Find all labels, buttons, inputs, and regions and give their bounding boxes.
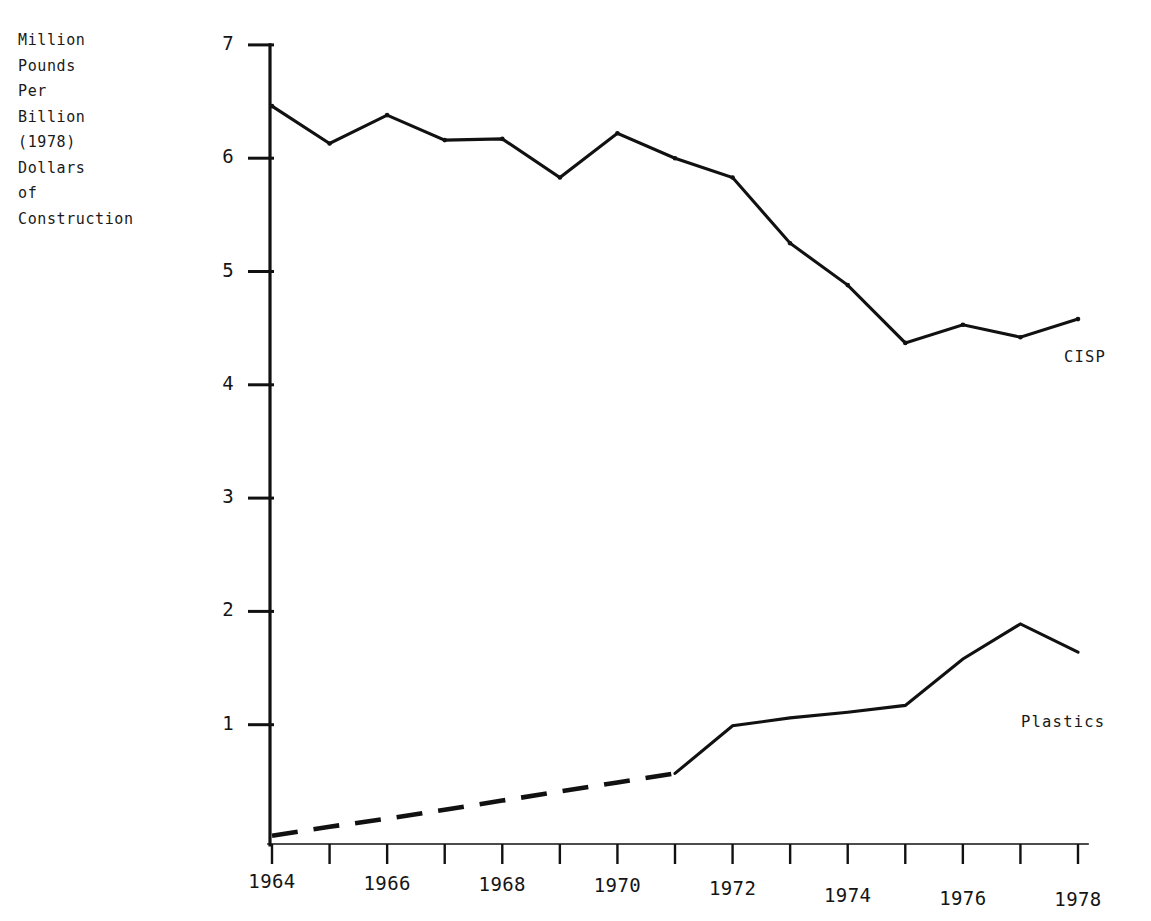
series-point-cisp-1978 bbox=[1076, 317, 1081, 322]
series-point-cisp-1972 bbox=[730, 175, 735, 180]
y-tick-label-2: 2 bbox=[210, 598, 234, 620]
y-tick-label-3: 3 bbox=[210, 485, 234, 507]
series-line-plastics bbox=[675, 624, 1078, 774]
series-point-cisp-1969 bbox=[558, 175, 563, 180]
x-tick-label-1972: 1972 bbox=[701, 877, 765, 899]
series-point-cisp-1975 bbox=[903, 341, 908, 346]
x-tick-label-1970: 1970 bbox=[585, 874, 649, 896]
series-point-cisp-1974 bbox=[845, 283, 850, 288]
y-tick-label-7: 7 bbox=[210, 32, 234, 54]
x-tick-label-1978: 1978 bbox=[1046, 888, 1110, 910]
x-tick-label-1968: 1968 bbox=[470, 873, 534, 895]
series-point-cisp-1970 bbox=[615, 131, 620, 136]
chart-plot-area bbox=[0, 0, 1151, 921]
series-point-cisp-1966 bbox=[385, 113, 390, 118]
series-point-cisp-1965 bbox=[327, 141, 332, 146]
chart-page: MillionPoundsPerBillion(1978)DollarsofCo… bbox=[0, 0, 1151, 921]
y-tick-label-1: 1 bbox=[210, 712, 234, 734]
series-point-cisp-1964 bbox=[270, 104, 275, 109]
series-point-cisp-1971 bbox=[673, 156, 678, 161]
chart-series bbox=[270, 104, 1081, 836]
series-label-plastics: Plastics bbox=[1021, 713, 1105, 731]
x-tick-label-1974: 1974 bbox=[816, 884, 880, 906]
series-point-cisp-1977 bbox=[1018, 335, 1023, 340]
y-tick-label-4: 4 bbox=[210, 372, 234, 394]
x-tick-label-1964: 1964 bbox=[240, 870, 304, 892]
series-line-plastics-dashed bbox=[272, 773, 675, 835]
series-point-cisp-1973 bbox=[788, 241, 793, 246]
chart-axes bbox=[248, 45, 1088, 864]
series-point-cisp-1967 bbox=[442, 138, 447, 143]
series-point-cisp-1968 bbox=[500, 137, 505, 142]
series-point-cisp-1976 bbox=[961, 323, 966, 328]
x-tick-label-1966: 1966 bbox=[355, 872, 419, 894]
y-tick-label-6: 6 bbox=[210, 145, 234, 167]
series-line-cisp bbox=[272, 106, 1078, 343]
y-tick-label-5: 5 bbox=[210, 259, 234, 281]
series-label-cisp: CISP bbox=[1064, 348, 1106, 366]
x-tick-label-1976: 1976 bbox=[931, 887, 995, 909]
